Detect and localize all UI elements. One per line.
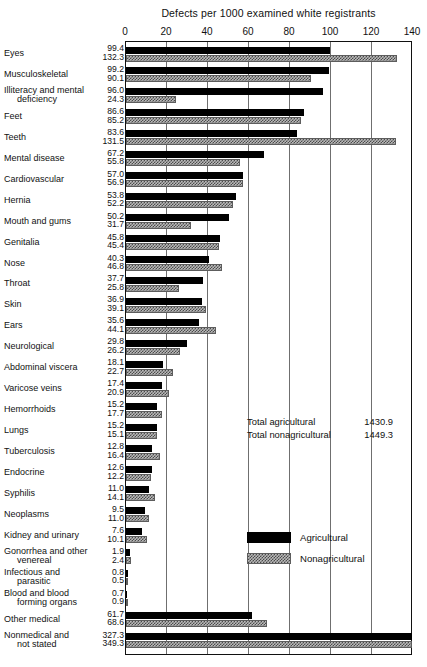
value-nonagricultural: 85.2 (78, 116, 124, 125)
bar-row (126, 214, 411, 230)
bar-agricultural (126, 445, 152, 452)
bar-nonagricultural (126, 453, 160, 460)
bar-row (126, 67, 411, 83)
bar-row (126, 466, 411, 482)
chart-root: Defects per 1000 examined white registra… (0, 0, 427, 667)
bar-row (126, 47, 411, 63)
bar-agricultural (126, 612, 252, 619)
bar-row (126, 193, 411, 209)
x-tick-60: 60 (242, 26, 253, 37)
value-pair: 61.768.6 (78, 610, 124, 627)
bar-agricultural (126, 361, 163, 368)
bar-row (126, 109, 411, 125)
value-pair: 15.215.1 (78, 421, 124, 438)
bar-nonagricultural (126, 201, 233, 208)
value-nonagricultural: 39.1 (78, 304, 124, 313)
value-nonagricultural: 26.2 (78, 346, 124, 355)
totals-row: Total agricultural1430.9 (247, 415, 393, 428)
x-axis-tick-labels: 020406080100120140 (0, 26, 427, 39)
bar-nonagricultural (126, 494, 155, 501)
value-pair: 67.255.8 (78, 149, 124, 166)
bar-agricultural (126, 256, 209, 263)
x-tick-80: 80 (283, 26, 294, 37)
bar-agricultural (126, 109, 304, 116)
value-nonagricultural: 25.8 (78, 283, 124, 292)
bar-agricultural (126, 67, 329, 74)
value-nonagricultural: 31.7 (78, 220, 124, 229)
bar-row (126, 172, 411, 188)
value-pair: 99.4132.3 (78, 44, 124, 61)
totals-value: 1449.3 (351, 428, 393, 441)
bar-row (126, 130, 411, 146)
bar-row (126, 88, 411, 104)
value-nonagricultural: 132.3 (78, 53, 124, 62)
value-nonagricultural: 11.0 (78, 514, 124, 523)
bar-nonagricultural (126, 75, 311, 82)
value-pair: 0.80.5 (78, 568, 124, 585)
bar-agricultural (126, 633, 412, 640)
bar-agricultural (126, 486, 149, 493)
bar-nonagricultural (126, 222, 191, 229)
bar-agricultural (126, 214, 229, 221)
bar-agricultural (126, 193, 236, 200)
x-tick-0: 0 (122, 26, 128, 37)
bar-agricultural (126, 403, 157, 410)
bar-nonagricultural (126, 243, 219, 250)
bar-agricultural (126, 549, 130, 556)
value-pair: 53.852.2 (78, 191, 124, 208)
value-pair: 86.685.2 (78, 107, 124, 124)
bar-agricultural (126, 130, 297, 137)
bar-nonagricultural (126, 515, 149, 522)
value-nonagricultural: 46.8 (78, 262, 124, 271)
value-nonagricultural: 0.5 (78, 576, 124, 585)
legend-item: Nonagricultural (247, 550, 365, 567)
value-pair: 1.92.4 (78, 547, 124, 564)
bar-nonagricultural (126, 557, 131, 564)
value-pair: 0.70.9 (78, 589, 124, 606)
value-nonagricultural: 90.1 (78, 74, 124, 83)
bar-nonagricultural (126, 264, 222, 271)
bar-row (126, 151, 411, 167)
value-nonagricultural: 12.2 (78, 472, 124, 481)
bar-nonagricultural (126, 138, 396, 145)
bar-nonagricultural (126, 327, 216, 334)
bar-row (126, 591, 411, 607)
value-nonagricultural: 16.4 (78, 451, 124, 460)
legend-label: Agricultural (300, 532, 348, 543)
value-labels: 99.4132.399.290.196.024.386.685.283.6131… (0, 41, 125, 655)
value-pair: 40.346.8 (78, 254, 124, 271)
value-pair: 12.612.2 (78, 463, 124, 480)
bar-nonagricultural (126, 306, 206, 313)
value-nonagricultural: 0.9 (78, 597, 124, 606)
legend-swatch-agr (247, 532, 291, 543)
value-nonagricultural: 2.4 (78, 556, 124, 565)
chart-legend: AgriculturalNonagricultural (247, 529, 365, 571)
bar-row (126, 445, 411, 461)
x-tick-100: 100 (322, 26, 339, 37)
value-pair: 50.231.7 (78, 212, 124, 229)
bar-nonagricultural (126, 578, 128, 585)
bar-row (126, 340, 411, 356)
value-pair: 12.816.4 (78, 442, 124, 459)
legend-label: Nonagricultural (300, 553, 365, 564)
bar-row (126, 382, 411, 398)
bar-agricultural (126, 466, 152, 473)
x-tick-140: 140 (404, 26, 421, 37)
value-pair: 99.290.1 (78, 65, 124, 82)
totals-annotation: Total agricultural1430.9Total nonagricul… (247, 415, 393, 441)
totals-value: 1430.9 (351, 415, 393, 428)
bar-nonagricultural (126, 285, 179, 292)
bar-row (126, 256, 411, 272)
bar-nonagricultural (126, 180, 243, 187)
bar-agricultural (126, 340, 187, 347)
bar-nonagricultural (126, 641, 412, 648)
value-nonagricultural: 55.8 (78, 157, 124, 166)
value-pair: 36.939.1 (78, 295, 124, 312)
value-nonagricultural: 24.3 (78, 95, 124, 104)
bar-nonagricultural (126, 369, 173, 376)
value-nonagricultural: 15.1 (78, 430, 124, 439)
value-nonagricultural: 20.9 (78, 388, 124, 397)
bar-agricultural (126, 424, 157, 431)
bar-nonagricultural (126, 117, 301, 124)
value-pair: 57.056.9 (78, 170, 124, 187)
